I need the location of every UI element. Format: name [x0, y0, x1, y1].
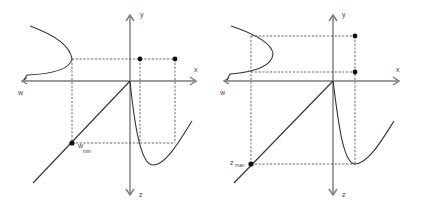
left-diagonal-line	[33, 81, 130, 183]
right-x-label: x	[396, 66, 400, 73]
right-panel: y x z w z max	[219, 11, 400, 198]
right-marker-label: z	[230, 159, 234, 166]
left-x-label: x	[194, 66, 198, 73]
right-point-1	[353, 34, 358, 39]
right-y-label: y	[342, 11, 346, 19]
left-z-curve	[130, 81, 192, 165]
right-diagonal-line	[234, 81, 333, 183]
right-zmax-point	[248, 161, 253, 166]
left-point-1	[138, 57, 143, 62]
right-z-curve	[333, 81, 394, 164]
left-z-label: z	[139, 191, 143, 198]
left-w-curve	[24, 26, 72, 80]
diagram-canvas: y x z w w min y x z w z max	[0, 0, 421, 207]
left-panel: y x z w w min	[17, 11, 198, 198]
left-y-label: y	[140, 11, 144, 19]
right-w-curve	[227, 26, 273, 80]
left-marker-subscript: min	[83, 148, 91, 154]
right-z-label: z	[342, 191, 346, 198]
left-point-2	[173, 57, 178, 62]
left-w-label: w	[17, 89, 24, 96]
right-w-label: w	[219, 89, 226, 96]
left-wmin-point	[69, 140, 74, 145]
right-marker-subscript: max	[235, 162, 245, 168]
right-point-2	[353, 70, 358, 75]
